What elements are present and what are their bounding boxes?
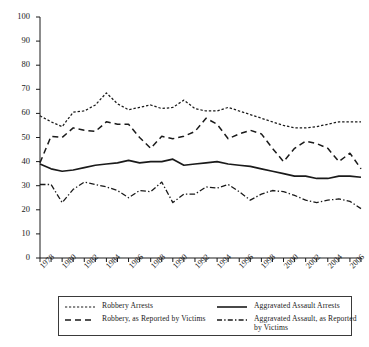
legend-swatch-aggravated-assault-arrests bbox=[216, 304, 250, 313]
legend-label-robbery-arrests: Robbery Arrests bbox=[102, 301, 212, 310]
chart-axes bbox=[36, 17, 361, 262]
y-tick-label: 50 bbox=[8, 133, 30, 142]
y-tick-label: 20 bbox=[8, 205, 30, 214]
y-tick-label: 60 bbox=[8, 108, 30, 117]
series-line-aggravated-assault-arrests bbox=[40, 159, 361, 178]
legend-label-aggravated-assault-victims: Aggravated Assault, as Reported by Victi… bbox=[254, 314, 362, 332]
y-tick-label: 70 bbox=[8, 84, 30, 93]
y-axis-ticks bbox=[36, 17, 40, 258]
series-line-robbery-arrests bbox=[40, 93, 361, 128]
y-tick-label: 10 bbox=[8, 229, 30, 238]
line-chart-plot bbox=[0, 0, 369, 347]
chart-figure: 0102030405060708090100 19781980198219841… bbox=[0, 0, 369, 347]
series-line-aggravated-assault-as-reported-by-victims bbox=[40, 182, 361, 209]
y-tick-label: 100 bbox=[8, 12, 30, 21]
y-tick-label: 80 bbox=[8, 60, 30, 69]
chart-series-group bbox=[40, 93, 361, 209]
y-tick-label: 30 bbox=[8, 181, 30, 190]
legend-label-aggravated-assault-arrests: Aggravated Assault Arrests bbox=[254, 301, 362, 310]
series-line-robbery-as-reported-by-victims bbox=[40, 118, 361, 169]
legend-swatch-aggravated-assault-victims bbox=[216, 317, 250, 326]
y-tick-label: 0 bbox=[8, 253, 30, 262]
legend-label-robbery-victims: Robbery, as Reported by Victims bbox=[102, 314, 212, 323]
legend-swatch-robbery-arrests bbox=[64, 304, 98, 313]
y-tick-label: 90 bbox=[8, 36, 30, 45]
legend-swatch-robbery-victims bbox=[64, 317, 98, 326]
chart-legend: Robbery Arrests Aggravated Assault Arres… bbox=[58, 296, 352, 336]
y-tick-label: 40 bbox=[8, 157, 30, 166]
